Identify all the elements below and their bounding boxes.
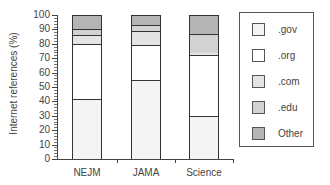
bar-segment-edu [73, 29, 101, 35]
bar-segment-gov [132, 80, 160, 159]
y-tick [54, 93, 57, 94]
x-tick [233, 159, 234, 163]
y-tick [54, 38, 57, 39]
y-tick [54, 67, 57, 68]
y-tick-label: 70 [20, 53, 50, 63]
legend-item: .edu [252, 101, 312, 115]
y-tick [54, 50, 57, 51]
y-tick [54, 24, 57, 25]
y-tick [52, 145, 57, 146]
y-tick [54, 78, 57, 79]
legend-swatch [252, 127, 265, 140]
y-tick [54, 81, 57, 82]
y-tick [54, 27, 57, 28]
y-tick [54, 119, 57, 120]
bar-science [189, 15, 219, 159]
bar-segment-other [132, 15, 160, 25]
legend-swatch [252, 75, 265, 88]
y-tick [54, 113, 57, 114]
y-tick [54, 84, 57, 85]
y-tick-label: 0 [20, 154, 50, 164]
y-tick [52, 29, 57, 30]
y-tick [52, 15, 57, 16]
y-tick [54, 147, 57, 148]
y-tick [54, 64, 57, 65]
y-tick [54, 55, 57, 56]
x-tick-label: Science [174, 167, 234, 178]
y-tick [54, 90, 57, 91]
bar-segment-org [73, 44, 101, 99]
y-tick [54, 96, 57, 97]
y-axis-label: Internet references (%) [8, 29, 19, 139]
y-tick [54, 127, 57, 128]
bar-jama [131, 15, 161, 159]
legend-swatch [252, 49, 265, 62]
bar-segment-other [190, 15, 218, 34]
y-tick [54, 153, 57, 154]
bar-segment-com [132, 31, 160, 45]
y-tick [54, 32, 57, 33]
y-tick [54, 133, 57, 134]
legend-item: .com [252, 75, 312, 89]
y-tick [52, 130, 57, 131]
bar-segment-com [73, 35, 101, 44]
y-tick-label: 60 [20, 68, 50, 78]
y-tick [54, 21, 57, 22]
bar-segment-other [73, 15, 101, 29]
y-tick-label: 100 [20, 10, 50, 20]
x-axis [57, 159, 233, 160]
bar-segment-edu [190, 34, 218, 53]
y-tick [54, 75, 57, 76]
y-tick [54, 47, 57, 48]
legend-item: .gov [252, 23, 312, 37]
bar-segment-org [190, 55, 218, 115]
y-tick-label: 80 [20, 39, 50, 49]
legend-swatch [252, 101, 265, 114]
y-tick-label: 10 [20, 140, 50, 150]
y-tick [54, 136, 57, 137]
x-tick [117, 159, 118, 163]
y-tick [52, 159, 57, 160]
y-tick [54, 142, 57, 143]
x-tick-label: JAMA [116, 167, 176, 178]
y-tick [54, 52, 57, 53]
x-tick [175, 159, 176, 163]
y-tick [52, 116, 57, 117]
y-tick [52, 101, 57, 102]
bar-segment-edu [132, 25, 160, 31]
legend-label: .edu [278, 101, 297, 114]
y-tick [52, 44, 57, 45]
bar-nejm [72, 15, 102, 159]
y-tick [54, 139, 57, 140]
y-tick [54, 122, 57, 123]
y-tick [54, 99, 57, 100]
y-tick [52, 87, 57, 88]
legend-item: Other [252, 127, 312, 141]
y-tick [54, 18, 57, 19]
y-tick [52, 73, 57, 74]
y-tick [54, 35, 57, 36]
y-tick [54, 110, 57, 111]
legend: .gov.org.com.eduOther [239, 12, 314, 147]
legend-label: Other [278, 127, 303, 140]
legend-swatch [252, 23, 265, 36]
bar-segment-gov [190, 116, 218, 159]
y-tick [54, 70, 57, 71]
y-tick-label: 30 [20, 111, 50, 121]
legend-item: .org [252, 49, 312, 63]
y-tick-label: 20 [20, 125, 50, 135]
legend-label: .gov [278, 23, 297, 36]
y-tick-label: 50 [20, 82, 50, 92]
x-tick-label: NEJM [57, 167, 117, 178]
y-tick-label: 90 [20, 24, 50, 34]
y-tick [54, 156, 57, 157]
y-tick [54, 41, 57, 42]
bar-segment-org [132, 45, 160, 80]
y-tick-label: 40 [20, 96, 50, 106]
legend-label: .com [278, 75, 300, 88]
y-tick [54, 104, 57, 105]
y-axis [57, 15, 58, 160]
bar-segment-gov [73, 99, 101, 159]
y-tick [54, 107, 57, 108]
legend-label: .org [278, 49, 295, 62]
